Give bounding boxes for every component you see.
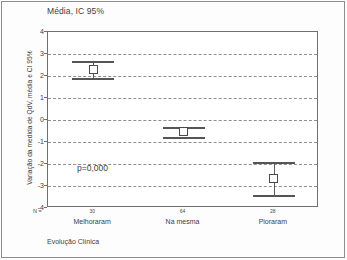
- errorbar-lower-cap: [253, 195, 295, 197]
- mean-marker: [269, 174, 278, 183]
- x-axis-category-label: Na mesma: [166, 218, 200, 225]
- y-axis-tick-mark: [44, 141, 47, 142]
- y-axis-tick-mark: [44, 97, 47, 98]
- group-count-label: 30: [89, 208, 95, 214]
- y-axis-title: Variação da medida de QdV, média e CI 95…: [26, 28, 33, 208]
- figure-container: Média, IC 95% Variação da medida de QdV,…: [0, 0, 347, 260]
- y-axis-tick-mark: [44, 163, 47, 164]
- group-count-label: 28: [270, 208, 276, 214]
- y-axis-tick-mark: [44, 207, 47, 208]
- y-axis-tick-mark: [44, 31, 47, 32]
- gridline: [48, 54, 317, 55]
- y-axis-tick-mark: [44, 75, 47, 76]
- mean-marker: [89, 65, 98, 74]
- x-axis-title: Evolução Clínica: [47, 238, 99, 245]
- y-axis-tick-mark: [44, 119, 47, 120]
- group-count-label: 64: [180, 208, 186, 214]
- pvalue-annotation: p=0,000: [77, 163, 108, 173]
- mean-marker: [179, 127, 188, 136]
- y-axis-tick-mark: [44, 53, 47, 54]
- x-axis-category-label: Pioraram: [259, 218, 287, 225]
- gridline: [48, 186, 317, 187]
- plot-area: [47, 31, 318, 207]
- errorbar-upper-cap: [253, 162, 295, 164]
- x-axis-category-label: Melhoraram: [73, 218, 110, 225]
- gridline: [48, 142, 317, 143]
- chart-title: Média, IC 95%: [47, 6, 104, 16]
- errorbar-lower-cap: [72, 78, 114, 80]
- gridline: [48, 76, 317, 77]
- gridline: [48, 98, 317, 99]
- errorbar-upper-cap: [72, 61, 114, 63]
- errorbar-lower-cap: [163, 137, 205, 139]
- y-axis-tick-mark: [44, 185, 47, 186]
- gridline: [48, 120, 317, 121]
